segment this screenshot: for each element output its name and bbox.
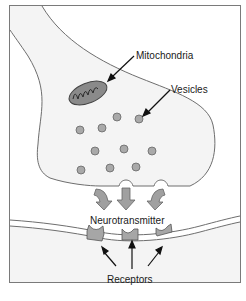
vesicle <box>77 166 85 174</box>
label-neurotransmitter: Neurotransmitter <box>90 215 165 226</box>
label-receptors: Receptors <box>107 274 153 285</box>
vesicle <box>135 115 143 123</box>
label-vesicles: Vesicles <box>171 84 208 95</box>
vesicle <box>120 145 128 153</box>
vesicle <box>106 164 114 172</box>
vesicle <box>132 163 140 171</box>
vesicle <box>113 113 121 121</box>
vesicle <box>91 147 99 155</box>
label-mitochondria: Mitochondria <box>136 50 194 61</box>
vesicle <box>76 126 84 134</box>
vesicle <box>148 147 156 155</box>
vesicle <box>98 124 106 132</box>
synapse-diagram: Neurotransmitter Receptors Mitochondria … <box>0 0 246 301</box>
